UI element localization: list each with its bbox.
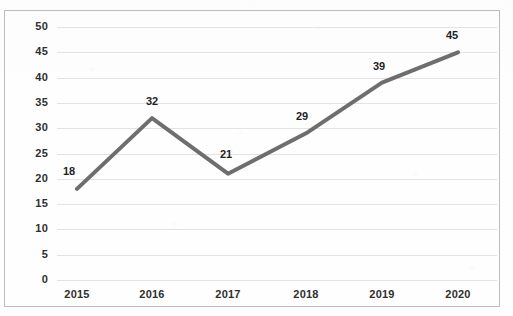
data-point-label: 39 <box>364 61 394 72</box>
chart-canvas: 05101520253035404550 2015201620172018201… <box>0 0 513 316</box>
data-point-label: 21 <box>211 149 241 160</box>
series-line-group <box>0 0 513 316</box>
data-point-label: 45 <box>437 30 467 41</box>
data-point-label: 18 <box>54 166 84 177</box>
data-point-label: 29 <box>287 111 317 122</box>
series-line-path <box>77 52 458 189</box>
data-point-label: 32 <box>137 96 167 107</box>
